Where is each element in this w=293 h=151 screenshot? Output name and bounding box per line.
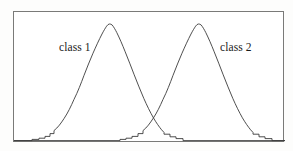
class-2-label: class 2 [220,41,252,53]
figure-root: class 1 class 2 [0,0,293,151]
class-1-label: class 1 [59,41,91,53]
plot-frame: class 1 class 2 [13,11,284,142]
distribution-curves [14,12,285,143]
